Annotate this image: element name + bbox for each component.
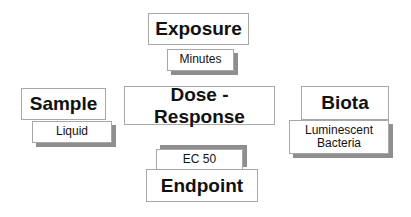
node-dose-response[interactable]: Dose - Response	[124, 86, 275, 125]
dose-response-diagram: Exposure Minutes Sample Liquid Dose - Re…	[0, 0, 411, 217]
node-exposure[interactable]: Exposure	[148, 13, 249, 45]
node-biota[interactable]: Biota	[301, 86, 389, 120]
node-sample[interactable]: Sample	[21, 88, 106, 120]
node-luminescent-bacteria[interactable]: Luminescent Bacteria	[289, 120, 389, 154]
node-endpoint[interactable]: Endpoint	[146, 169, 258, 202]
node-minutes[interactable]: Minutes	[167, 49, 234, 71]
node-liquid[interactable]: Liquid	[32, 121, 112, 143]
node-ec50[interactable]: EC 50	[156, 149, 243, 171]
